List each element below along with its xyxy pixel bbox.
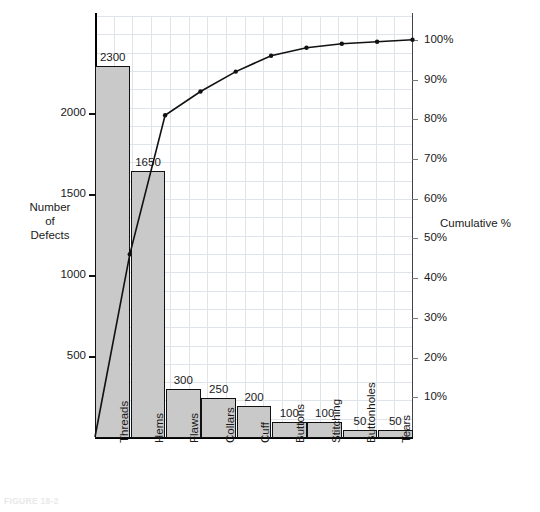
secondary-y-tick-label: 30% (424, 311, 447, 323)
cumulative-marker (163, 113, 167, 117)
y-axis-title: Number of Defects (8, 200, 92, 242)
cumulative-marker (410, 38, 414, 42)
cumulative-marker (304, 46, 308, 50)
cumulative-marker (128, 252, 132, 256)
cumulative-marker (269, 54, 273, 58)
y-tick-label: 1000 (60, 268, 86, 280)
cumulative-marker (234, 69, 238, 73)
secondary-y-tick-label: 80% (424, 112, 447, 124)
secondary-y-tick-label: 70% (424, 152, 447, 164)
cumulative-line-series (95, 13, 413, 438)
figure-caption: FIGURE 18-2 (4, 496, 59, 506)
pareto-chart-figure: Number of Defects Cumulative % 500100015… (0, 0, 540, 512)
cumulative-marker (375, 40, 379, 44)
cumulative-line (95, 40, 413, 437)
cumulative-marker (340, 42, 344, 46)
secondary-y-tick-label: 20% (424, 351, 447, 363)
secondary-y-tick-label: 40% (424, 271, 447, 283)
secondary-y-axis-title: Cumulative % (440, 216, 536, 230)
y-tick-label: 1500 (60, 187, 86, 199)
secondary-y-tick-label: 90% (424, 73, 447, 85)
plot-area: 500100015002000 10%20%30%40%50%60%70%80%… (95, 13, 413, 438)
y-tick-label: 2000 (60, 106, 86, 118)
secondary-y-tick-label: 100% (424, 33, 453, 45)
secondary-y-tick-label: 60% (424, 192, 447, 204)
secondary-y-tick-label: 50% (424, 231, 447, 243)
cumulative-marker (198, 89, 202, 93)
y-axis-title-line-1: Number (8, 200, 92, 214)
y-axis-title-line-3: Defects (8, 228, 92, 242)
cumulative-markers (128, 38, 415, 257)
y-axis-title-line-2: of (8, 214, 92, 228)
secondary-y-tick-label: 10% (424, 390, 447, 402)
y-tick-label: 500 (67, 349, 86, 361)
